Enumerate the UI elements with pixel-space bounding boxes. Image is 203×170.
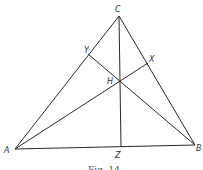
side-ca	[15, 16, 119, 149]
label-z: Z	[114, 151, 121, 160]
label-a: A	[3, 146, 9, 155]
label-x: X	[148, 55, 155, 64]
side-ab	[15, 145, 195, 149]
triangle-diagram: C A B Z H Y X Fig. 14	[0, 0, 203, 170]
label-c: C	[115, 5, 121, 14]
altitude-ax	[15, 63, 148, 149]
label-b: B	[196, 144, 202, 153]
side-bc	[119, 16, 195, 145]
figure-caption: Fig. 14	[88, 165, 120, 170]
label-h: H	[107, 77, 113, 86]
